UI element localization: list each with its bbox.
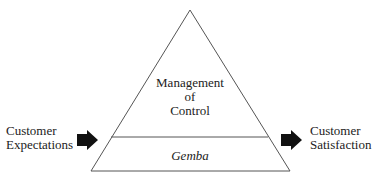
- upper-label-line-1: Management: [140, 76, 240, 90]
- input-label: Customer Expectations: [6, 124, 73, 152]
- pyramid-diagram: Management of Control Gemba Customer Exp…: [0, 0, 374, 180]
- lower-section-label: Gemba: [140, 149, 240, 163]
- input-label-line-1: Customer: [6, 124, 73, 138]
- upper-label-line-3: Control: [140, 104, 240, 118]
- upper-section-label: Management of Control: [140, 76, 240, 118]
- output-label: Customer Satisfaction: [310, 124, 371, 152]
- input-label-line-2: Expectations: [6, 138, 73, 152]
- input-arrow-icon: [77, 130, 98, 150]
- output-label-line-1: Customer: [310, 124, 371, 138]
- upper-label-line-2: of: [140, 90, 240, 104]
- output-arrow-icon: [281, 130, 302, 150]
- output-label-line-2: Satisfaction: [310, 138, 371, 152]
